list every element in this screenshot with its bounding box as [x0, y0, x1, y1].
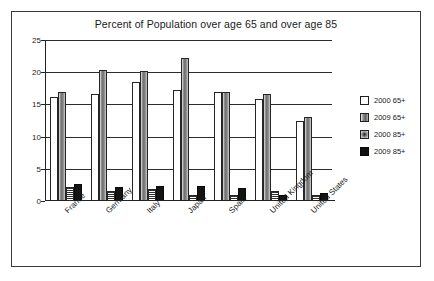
bar-group — [250, 40, 291, 201]
bar[interactable] — [91, 94, 99, 201]
chart-title: Percent of Population over age 65 and ov… — [12, 18, 420, 30]
legend-item[interactable]: 2009 85+ — [360, 143, 422, 160]
bar[interactable] — [222, 92, 230, 201]
bar-groups — [45, 40, 332, 201]
x-label-cell: United States — [291, 202, 332, 264]
y-tick-label: 20 — [19, 68, 41, 77]
x-label-cell: United Kingdom — [250, 202, 291, 264]
bar[interactable] — [255, 99, 263, 201]
x-label-cell: Italy — [127, 202, 168, 264]
legend-label: 2009 85+ — [374, 147, 406, 156]
legend-label: 2000 65+ — [374, 96, 406, 105]
legend-label: 2000 85+ — [374, 130, 406, 139]
legend-swatch-icon — [360, 113, 369, 122]
legend-item[interactable]: 2000 85+ — [360, 126, 422, 143]
bar-group — [86, 40, 127, 201]
bar[interactable] — [99, 70, 107, 201]
y-tick-label: 0 — [19, 197, 41, 206]
y-tick-label: 25 — [19, 36, 41, 45]
bar[interactable] — [181, 58, 189, 201]
y-tick-label: 15 — [19, 100, 41, 109]
bar-group — [45, 40, 86, 201]
legend-swatch-icon — [360, 147, 369, 156]
bar[interactable] — [304, 117, 312, 201]
x-label-cell: Spain — [209, 202, 250, 264]
chart-figure: Percent of Population over age 65 and ov… — [11, 11, 421, 267]
bar-group — [127, 40, 168, 201]
legend-swatch-icon — [360, 96, 369, 105]
x-axis-baseline — [45, 200, 335, 201]
y-tick-label: 5 — [19, 164, 41, 173]
x-label-cell: Germany — [86, 202, 127, 264]
bar[interactable] — [50, 97, 58, 201]
legend: 2000 65+2009 65+2000 85+2009 85+ — [360, 92, 422, 160]
x-label-cell: Japan — [168, 202, 209, 264]
bar-group — [209, 40, 250, 201]
bar[interactable] — [214, 92, 222, 201]
legend-label: 2009 65+ — [374, 113, 406, 122]
legend-item[interactable]: 2009 65+ — [360, 109, 422, 126]
plot-area — [45, 40, 332, 201]
bar[interactable] — [132, 82, 140, 201]
bar[interactable] — [173, 90, 181, 201]
x-axis-labels: FranceGermanyItalyJapanSpainUnited Kingd… — [45, 202, 332, 264]
bar[interactable] — [58, 92, 66, 201]
bar[interactable] — [263, 94, 271, 201]
y-axis: 0510152025 — [16, 40, 41, 201]
bar-group — [168, 40, 209, 201]
y-tick-label: 10 — [19, 132, 41, 141]
x-label-cell: France — [45, 202, 86, 264]
bar[interactable] — [140, 71, 148, 201]
legend-item[interactable]: 2000 65+ — [360, 92, 422, 109]
legend-swatch-icon — [360, 130, 369, 139]
